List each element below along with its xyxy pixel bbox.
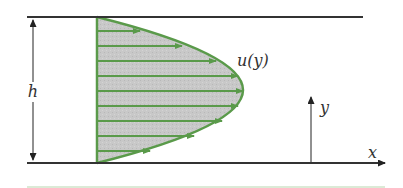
velocity-label: u(y) bbox=[237, 51, 269, 70]
y-axis-label: y bbox=[319, 98, 330, 117]
height-label: h bbox=[28, 82, 38, 101]
flow-diagram: h u(y) y x bbox=[0, 0, 403, 188]
x-axis-label: x bbox=[368, 143, 377, 162]
